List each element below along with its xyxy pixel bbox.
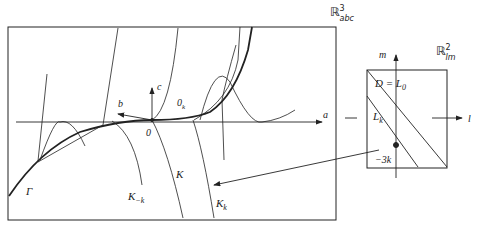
axis-a-label: a [323, 109, 328, 120]
origin-dot [151, 119, 154, 122]
curve-K-k [193, 120, 214, 218]
origin-label: 0 [146, 127, 151, 138]
curve-K-label: K [175, 168, 184, 180]
line-D-label: D = L0 [374, 77, 406, 92]
point-3k-label: −3k [375, 154, 392, 165]
line-Lk-label: Lk [372, 110, 383, 125]
left-space-label: ℝ3abc [330, 4, 355, 23]
line-1 [38, 28, 118, 162]
left-frame [8, 27, 336, 220]
curve-K-k-label: Kk [215, 197, 227, 212]
b-axis [118, 114, 152, 120]
point-3k [394, 143, 399, 148]
axis-b-label: b [118, 98, 123, 109]
line-right [222, 45, 236, 160]
line-2 [38, 74, 47, 161]
right-panel [345, 55, 462, 178]
right-space-label: ℝ2lm [436, 43, 456, 62]
mapping-arrow [214, 150, 379, 185]
left-panel [8, 27, 336, 220]
origin-k-label: 0k [177, 97, 186, 111]
axis-l-label: l [468, 113, 471, 124]
parabola-a [200, 76, 295, 122]
gamma-label: Γ [25, 185, 33, 197]
curve-K-minus-k-label: K−k [127, 190, 145, 205]
curve-K-minus-k [112, 121, 142, 185]
curve-up-origin [152, 28, 178, 120]
axis-c-label: c [157, 81, 162, 92]
diagram-canvas: ℝ3abc a b c 0 0k Γ K K−k Kk ℝ2lm m l D =… [0, 0, 479, 225]
axis-m-label: m [379, 49, 386, 60]
gamma-curve [9, 27, 252, 196]
